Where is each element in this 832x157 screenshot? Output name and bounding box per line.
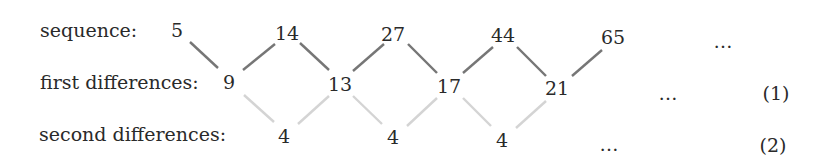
second-differences-label: second differences: [39, 123, 226, 145]
sequence-term: 65 [601, 26, 625, 48]
second-difference: 4 [387, 126, 399, 148]
first-to-second-links [244, 95, 546, 128]
sequence-term: 27 [381, 23, 405, 45]
first-difference: 13 [328, 73, 352, 95]
second-difference: 4 [496, 129, 508, 151]
sequence-label: sequence: [40, 19, 137, 41]
second-differences-ellipsis: … [600, 133, 619, 155]
equation-number-2: (2) [760, 134, 787, 156]
equation-number-1: (1) [763, 82, 790, 104]
first-differences-label: first differences: [40, 71, 199, 93]
sequence-term: 5 [171, 19, 183, 41]
sequence-to-first-links [190, 42, 602, 76]
sequence-ellipsis: … [714, 30, 733, 52]
first-difference: 9 [223, 71, 235, 93]
first-difference: 17 [437, 75, 461, 97]
first-difference: 21 [545, 77, 569, 99]
sequence-term: 14 [275, 22, 299, 44]
first-differences-ellipsis: … [659, 82, 678, 104]
second-difference: 4 [278, 125, 290, 147]
sequence-term: 44 [491, 24, 515, 46]
